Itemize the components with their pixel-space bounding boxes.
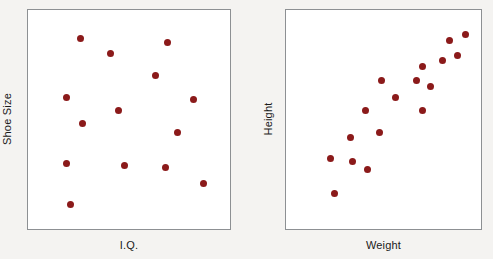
scatter-point — [164, 39, 171, 46]
scatter-point — [419, 107, 426, 114]
y-axis-label-height: Height — [262, 89, 274, 149]
scatter-point — [439, 57, 446, 64]
scatter-point — [392, 94, 399, 101]
scatter-point — [121, 162, 128, 169]
scatter-point — [190, 96, 197, 103]
chart-panel-weight-height: Height Weight — [250, 0, 493, 259]
scatter-point — [362, 107, 369, 114]
scatter-point — [200, 180, 207, 187]
scatter-point — [79, 120, 86, 127]
scatter-point — [413, 77, 420, 84]
scatter-point — [327, 155, 334, 162]
plot-area-left — [27, 9, 231, 230]
scatter-point — [77, 35, 84, 42]
x-axis-label-weight: Weight — [285, 239, 482, 251]
scatter-point — [349, 158, 356, 165]
scatter-point — [378, 77, 385, 84]
scatter-point — [63, 94, 70, 101]
plot-area-right — [285, 9, 482, 230]
scatter-point — [446, 37, 453, 44]
scatter-point — [174, 129, 181, 136]
scatter-point — [419, 63, 426, 70]
chart-panel-iq-shoe-size: Shoe Size I.Q. — [0, 0, 250, 259]
scatter-point — [347, 134, 354, 141]
scatter-point — [331, 190, 338, 197]
x-axis-label-iq: I.Q. — [27, 239, 231, 251]
scatter-point — [67, 201, 74, 208]
scatter-point — [115, 107, 122, 114]
scatter-plot-figure: Shoe Size I.Q. Height Weight — [0, 0, 493, 259]
scatter-point — [63, 160, 70, 167]
scatter-point — [107, 50, 114, 57]
scatter-point — [364, 166, 371, 173]
data-points-left — [28, 10, 230, 229]
y-axis-label-shoe-size: Shoe Size — [1, 89, 13, 149]
data-points-right — [286, 10, 481, 229]
scatter-point — [376, 129, 383, 136]
scatter-point — [162, 164, 169, 171]
scatter-point — [462, 31, 469, 38]
scatter-point — [454, 52, 461, 59]
scatter-point — [152, 72, 159, 79]
scatter-point — [427, 83, 434, 90]
